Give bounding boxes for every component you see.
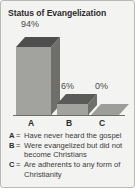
bar-a-front-face bbox=[16, 47, 52, 115]
bar-c-top-face bbox=[91, 103, 129, 115]
legend-item-b: B = Were evangelized but did not become … bbox=[9, 141, 131, 160]
bar-value-label-c: 0% bbox=[95, 81, 108, 91]
legend-key-a: A bbox=[9, 131, 16, 140]
legend-separator-c: = bbox=[16, 160, 24, 169]
bar-value-label-b: 6% bbox=[61, 81, 74, 91]
axis-baseline bbox=[13, 115, 125, 116]
legend-item-a: A = Have never heard the gospel bbox=[9, 131, 131, 140]
category-label-a: A bbox=[28, 118, 34, 128]
chart-title: Status of Evangelization bbox=[8, 8, 106, 18]
category-label-c: C bbox=[99, 118, 105, 128]
legend-text-a: Have never heard the gospel bbox=[24, 131, 131, 140]
legend-key-b: B bbox=[9, 141, 16, 150]
bar-value-label-a: 94% bbox=[21, 19, 39, 29]
legend-text-c: Are adherents to any form of Christianit… bbox=[24, 160, 131, 179]
bar-a bbox=[16, 37, 60, 115]
chart-legend: A = Have never heard the gospel B = Were… bbox=[9, 131, 131, 180]
legend-text-b: Were evangelized but did not become Chri… bbox=[24, 141, 131, 160]
bar-b-front-face bbox=[57, 104, 89, 115]
legend-key-c: C bbox=[9, 160, 16, 169]
chart-panel: Status of Evangelization 94% 6% 0% A B C… bbox=[0, 0, 135, 188]
plot-area: 94% 6% 0% bbox=[1, 19, 135, 119]
legend-separator-b: = bbox=[16, 141, 24, 150]
category-label-b: B bbox=[66, 118, 72, 128]
legend-separator-a: = bbox=[16, 131, 24, 140]
bar-c bbox=[91, 103, 129, 115]
legend-item-c: C = Are adherents to any form of Christi… bbox=[9, 160, 131, 179]
